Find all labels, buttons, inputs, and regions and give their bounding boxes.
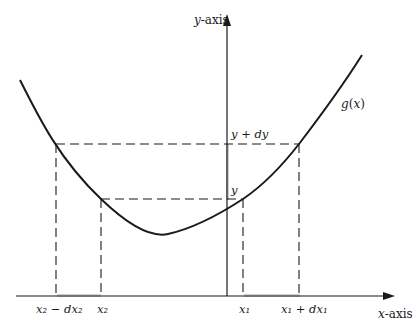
x2-label: x₂ bbox=[97, 302, 108, 316]
y-axis-label: y-axis bbox=[193, 13, 229, 27]
x1-label: x₁ bbox=[239, 302, 250, 316]
x1-plus-dx1-label: x₁ + dx₁ bbox=[281, 302, 328, 316]
curve-label: g(x) bbox=[341, 97, 365, 111]
curve-g bbox=[20, 55, 362, 235]
diagram-canvas: y-axis x-axis g(x) y + dy y x₂ − dx₂ x₂ … bbox=[0, 0, 419, 326]
x-axis-arrow-icon bbox=[383, 292, 395, 300]
x-axis-label: x-axis bbox=[378, 307, 413, 321]
y-plus-dy-label: y + dy bbox=[230, 127, 269, 141]
x2-minus-dx2-label: x₂ − dx₂ bbox=[36, 302, 83, 316]
y-label: y bbox=[230, 183, 238, 197]
